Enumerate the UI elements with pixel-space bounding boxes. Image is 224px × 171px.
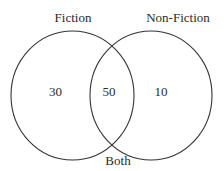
fiction-circle (11, 31, 134, 160)
venn-diagram: Fiction Non-Fiction 30 50 10 Both (0, 0, 224, 171)
non-fiction-only-value: 10 (155, 84, 168, 99)
fiction-set-label: Fiction (55, 10, 92, 25)
intersection-label: Both (105, 153, 131, 168)
fiction-only-value: 30 (49, 84, 62, 99)
non-fiction-set-label: Non-Fiction (146, 10, 210, 25)
both-value: 50 (103, 84, 116, 99)
